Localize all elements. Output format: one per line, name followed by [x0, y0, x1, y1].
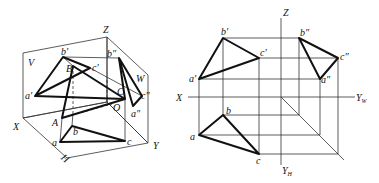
label-a-2: a [190, 131, 195, 142]
label-O: O [113, 102, 120, 113]
front-view-triangle [35, 57, 90, 96]
label-H: H [58, 151, 72, 165]
label-A: A [51, 117, 59, 128]
label-B: B [66, 63, 72, 74]
label-a: a [52, 137, 57, 148]
label-a-dbl-2: a" [321, 74, 331, 85]
top-view-triangle [60, 126, 125, 142]
label-C: C [117, 86, 124, 97]
label-V: V [28, 57, 36, 68]
side-view-triangle-2 [299, 38, 338, 79]
label-c: c [127, 136, 132, 147]
label-b-prime-2: b' [221, 26, 229, 37]
orthographic-diagram: Z X YW YH a' b' c' a" b" c" a b c [175, 7, 368, 177]
label-c-prime: c' [92, 62, 99, 73]
label-Y: Y [153, 140, 160, 151]
label-c-dbl: c" [141, 90, 150, 101]
label-b: b [73, 126, 78, 137]
label-X: X [12, 121, 20, 132]
label-b-dbl-2: b" [300, 27, 310, 38]
label-X-2: X [175, 92, 183, 103]
projection-figure: V W H Z X Y O A B C a' b' c' a" b" c" a … [0, 0, 379, 183]
top-view-triangle-2 [199, 115, 259, 154]
label-Yw: YW [356, 92, 368, 104]
label-a-prime-2: a' [189, 73, 197, 84]
label-c-dbl-2: c" [340, 51, 349, 62]
miter-line [281, 97, 344, 160]
axonometric-diagram: V W H Z X Y O A B C a' b' c' a" b" c" a … [12, 24, 160, 165]
label-W: W [136, 73, 146, 84]
front-view-triangle-2 [199, 38, 259, 79]
label-Z-2: Z [283, 7, 289, 18]
a-prime-to-C [35, 96, 125, 99]
label-Yh: YH [282, 165, 293, 177]
label-b-dbl: b" [107, 48, 117, 59]
label-b-2: b [226, 105, 231, 116]
label-a-dbl: a" [131, 108, 141, 119]
label-b-prime: b' [61, 46, 69, 57]
label-a-prime: a' [25, 90, 33, 101]
label-c-2: c [256, 155, 261, 166]
label-c-prime-2: c' [260, 47, 267, 58]
label-Z: Z [103, 24, 109, 35]
